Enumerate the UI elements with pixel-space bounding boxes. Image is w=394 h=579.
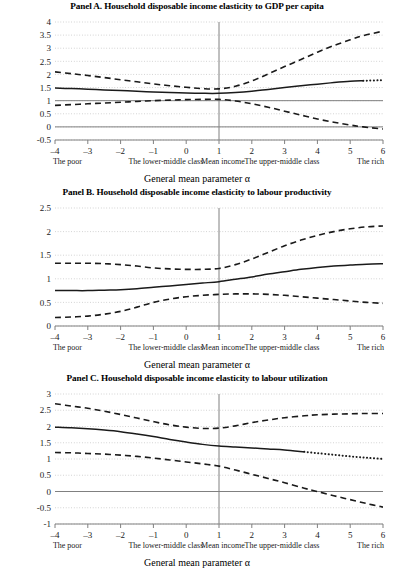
y-axis-tick-label: 1.5 bbox=[40, 83, 52, 93]
x-axis-tick-label: 3 bbox=[282, 146, 287, 156]
y-axis-tick-label: 1.5 bbox=[40, 250, 52, 260]
panel-c-title: Panel C. Household disposable income ela… bbox=[0, 372, 394, 384]
x-axis-tick-label: 4 bbox=[315, 332, 320, 342]
x-axis-tick-label: –3 bbox=[82, 332, 93, 342]
y-axis-tick-label: 2.5 bbox=[40, 405, 52, 415]
y-axis-tick-label: 2.5 bbox=[40, 203, 52, 213]
x-axis-tick-label: 2 bbox=[250, 146, 255, 156]
panel-b-plot: 00.511.522.5–4–3–2–10123456The poorThe l… bbox=[0, 198, 394, 358]
x-axis-tick-label: 1 bbox=[217, 332, 222, 342]
y-axis-tick-label: 2 bbox=[47, 227, 52, 237]
panel-b-svg: 00.511.522.5–4–3–2–10123456The poorThe l… bbox=[0, 198, 394, 358]
y-axis-tick-label: 2.5 bbox=[40, 57, 52, 67]
x-axis-tick-label: 5 bbox=[348, 146, 353, 156]
x-axis-tick-label: –1 bbox=[148, 530, 158, 540]
x-axis-category-label: The rich bbox=[357, 541, 384, 550]
y-axis-tick-label: 1 bbox=[47, 274, 52, 284]
x-axis-tick-label: 0 bbox=[184, 530, 189, 540]
panel-a: Panel A. Household disposable income ela… bbox=[0, 0, 394, 186]
x-axis-category-label: Mean income bbox=[201, 157, 245, 166]
y-axis-tick-label: 2 bbox=[47, 70, 52, 80]
x-axis-tick-label: –4 bbox=[50, 530, 61, 540]
x-axis-tick-label: 6 bbox=[381, 146, 386, 156]
x-axis-tick-label: 0 bbox=[184, 146, 189, 156]
x-axis-tick-label: –2 bbox=[115, 332, 125, 342]
panel-c-axis-title: General mean parameter α bbox=[0, 556, 394, 570]
y-axis-tick-label: 3 bbox=[47, 43, 52, 53]
y-axis-tick-label: 2 bbox=[47, 422, 52, 432]
y-axis-tick-label: 1.5 bbox=[40, 438, 52, 448]
series-line-solid bbox=[55, 81, 363, 94]
x-axis-category-label: The rich bbox=[357, 343, 384, 352]
x-axis-category-label: The upper-middle class bbox=[245, 343, 320, 352]
x-axis-tick-label: 4 bbox=[315, 146, 320, 156]
panel-a-plot: -0.500.511.522.533.54–4–3–2–10123456The … bbox=[0, 12, 394, 172]
y-axis-tick-label: -1 bbox=[44, 519, 52, 529]
series-line-solid bbox=[55, 427, 304, 452]
panel-c-svg: -1-0.500.511.522.53–4–3–2–10123456The po… bbox=[0, 384, 394, 556]
x-axis-tick-label: –3 bbox=[82, 146, 93, 156]
x-axis-tick-label: 5 bbox=[348, 530, 353, 540]
x-axis-tick-label: 3 bbox=[282, 332, 287, 342]
y-axis-tick-label: 1 bbox=[47, 96, 52, 106]
y-axis-tick-label: 0 bbox=[47, 122, 52, 132]
y-axis-tick-label: 4 bbox=[47, 17, 52, 27]
x-axis-category-label: The poor bbox=[53, 541, 82, 550]
series-line-dotted bbox=[304, 452, 383, 459]
y-axis-tick-label: -0.5 bbox=[37, 135, 52, 145]
y-axis-tick-label: 1 bbox=[47, 454, 52, 464]
x-axis-category-label: The lower-middle class bbox=[128, 157, 203, 166]
x-axis-tick-label: 6 bbox=[381, 332, 386, 342]
y-axis-tick-label: 0.5 bbox=[40, 470, 52, 480]
x-axis-tick-label: 3 bbox=[282, 530, 287, 540]
x-axis-tick-label: –2 bbox=[115, 146, 125, 156]
x-axis-category-label: The lower-middle class bbox=[128, 343, 203, 352]
panel-a-svg: -0.500.511.522.533.54–4–3–2–10123456The … bbox=[0, 12, 394, 172]
x-axis-category-label: The rich bbox=[357, 157, 384, 166]
y-axis-tick-label: 3.5 bbox=[40, 30, 52, 40]
x-axis-tick-label: 6 bbox=[381, 530, 386, 540]
x-axis-category-label: Mean income bbox=[201, 541, 245, 550]
y-axis-tick-label: -0.5 bbox=[37, 503, 52, 513]
panel-b: Panel B. Household disposable income ela… bbox=[0, 186, 394, 372]
x-axis-category-label: The lower-middle class bbox=[128, 541, 203, 550]
y-axis-tick-label: 0 bbox=[47, 487, 52, 497]
x-axis-tick-label: –1 bbox=[148, 332, 158, 342]
x-axis-tick-label: 1 bbox=[217, 146, 222, 156]
x-axis-category-label: The poor bbox=[53, 343, 82, 352]
panel-b-axis-title: General mean parameter α bbox=[0, 358, 394, 372]
x-axis-tick-label: 0 bbox=[184, 332, 189, 342]
panel-c: Panel C. Household disposable income ela… bbox=[0, 372, 394, 570]
x-axis-tick-label: 5 bbox=[348, 332, 353, 342]
x-axis-tick-label: –2 bbox=[115, 530, 125, 540]
panel-c-plot: -1-0.500.511.522.53–4–3–2–10123456The po… bbox=[0, 384, 394, 556]
y-axis-tick-label: 0.5 bbox=[40, 298, 52, 308]
x-axis-tick-label: –4 bbox=[50, 332, 61, 342]
x-axis-tick-label: –1 bbox=[148, 146, 158, 156]
x-axis-category-label: Mean income bbox=[201, 343, 245, 352]
x-axis-tick-label: –3 bbox=[82, 530, 93, 540]
y-axis-tick-label: 0 bbox=[47, 321, 52, 331]
panel-b-title: Panel B. Household disposable income ela… bbox=[0, 186, 394, 198]
x-axis-tick-label: 2 bbox=[250, 332, 255, 342]
x-axis-tick-label: –4 bbox=[50, 146, 61, 156]
x-axis-category-label: The upper-middle class bbox=[245, 157, 320, 166]
x-axis-category-label: The poor bbox=[53, 157, 82, 166]
y-axis-tick-label: 0.5 bbox=[40, 109, 52, 119]
x-axis-tick-label: 4 bbox=[315, 530, 320, 540]
figure-container: Panel A. Household disposable income ela… bbox=[0, 0, 394, 579]
panel-a-title: Panel A. Household disposable income ela… bbox=[0, 0, 394, 12]
x-axis-category-label: The upper-middle class bbox=[245, 541, 320, 550]
series-line-dotted bbox=[363, 80, 383, 81]
x-axis-tick-label: 1 bbox=[217, 530, 222, 540]
panel-a-axis-title: General mean parameter α bbox=[0, 172, 394, 186]
y-axis-tick-label: 3 bbox=[47, 389, 52, 399]
x-axis-tick-label: 2 bbox=[250, 530, 255, 540]
